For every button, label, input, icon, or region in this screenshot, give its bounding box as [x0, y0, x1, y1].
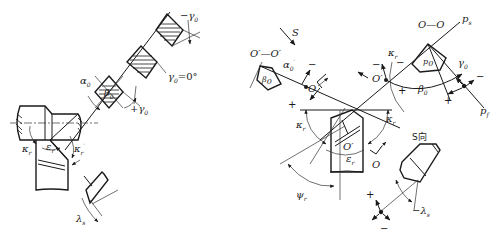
- section-pos-rake: α0 β0 +γ0: [80, 75, 148, 116]
- svg-text:p0: p0: [423, 57, 433, 68]
- svg-text:+: +: [288, 99, 296, 110]
- svg-text:γ0: γ0: [458, 57, 468, 70]
- svg-text:−γ0: −γ0: [180, 10, 198, 23]
- svg-text:O: O: [372, 159, 380, 170]
- inclination-view: λs: [75, 172, 118, 226]
- svg-text:O′: O′: [343, 141, 354, 152]
- tool-top-view: κr κr O′ εr ψr O: [280, 108, 397, 202]
- svg-text:+: +: [366, 189, 374, 200]
- svg-text:κr′: κr′: [73, 142, 85, 156]
- section-o-prime: β0: [250, 62, 281, 90]
- left-figure: −γ0 γ0=0° α0 β0: [10, 10, 200, 226]
- svg-text:ps: ps: [462, 13, 472, 26]
- svg-text:εr: εr: [346, 153, 355, 166]
- tool-angle-diagram: −γ0 γ0=0° α0 β0: [0, 0, 497, 236]
- workpiece: [10, 106, 98, 140]
- svg-text:S: S: [292, 27, 299, 38]
- svg-text:β0: β0: [417, 83, 428, 96]
- svg-text:−: −: [308, 59, 316, 70]
- svg-text:−: −: [380, 223, 388, 234]
- svg-text:γ0=0°: γ0=0°: [168, 71, 198, 84]
- svg-text:+: +: [444, 95, 452, 106]
- section-neg-rake: −γ0: [156, 10, 200, 46]
- svg-text:ψr: ψr: [296, 189, 308, 202]
- svg-text:pf: pf: [480, 105, 490, 119]
- svg-text:+γ0: +γ0: [130, 103, 148, 116]
- section-zero-rake: γ0=0°: [127, 46, 198, 84]
- svg-text:O′: O′: [372, 73, 383, 84]
- right-figure: S O′—O′ β0 α0′ − + O O′ − − + κr O—O ps: [250, 13, 490, 234]
- svg-text:S向: S向: [412, 131, 427, 142]
- svg-text:−λs: −λs: [412, 205, 430, 218]
- svg-text:O: O: [308, 83, 316, 94]
- svg-text:O—O: O—O: [418, 19, 444, 30]
- s-view: S向 + − −λs: [366, 131, 440, 234]
- svg-text:εr: εr: [46, 141, 55, 154]
- svg-text:λs: λs: [75, 213, 85, 226]
- svg-text:−: −: [476, 71, 484, 82]
- svg-text:κr: κr: [21, 143, 33, 156]
- svg-text:α0′: α0′: [283, 58, 296, 72]
- svg-text:κr: κr: [295, 119, 307, 132]
- cutting-tool: κr εr κr′: [21, 114, 85, 190]
- svg-text:κr: κr: [387, 47, 399, 60]
- svg-text:O′—O′: O′—O′: [250, 48, 282, 59]
- svg-text:−: −: [372, 59, 380, 70]
- svg-text:α0: α0: [80, 75, 91, 88]
